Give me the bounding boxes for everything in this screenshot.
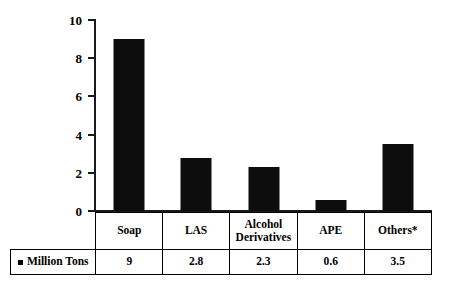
- y-axis-tick-mark: [88, 19, 95, 21]
- category-label: LAS: [163, 224, 229, 237]
- filled-square-marker-icon: [18, 260, 23, 265]
- y-axis-tick-mark: [88, 134, 95, 136]
- category-label: Derivatives: [230, 231, 297, 244]
- y-axis-tick-mark: [88, 172, 95, 174]
- y-axis-tick-label: 10: [46, 14, 82, 27]
- y-axis-tick-label: 6: [46, 90, 82, 103]
- category-cell: LAS: [163, 213, 230, 250]
- bar-series-million-tons: [95, 20, 432, 211]
- bar: [315, 200, 346, 211]
- category-label: Others*: [365, 224, 431, 237]
- bar: [113, 39, 144, 211]
- category-cell: APE: [297, 213, 364, 250]
- value-cell: 2.3: [229, 250, 297, 275]
- y-axis-tick-label: 2: [46, 166, 82, 179]
- legend-series-label: Million Tons: [27, 255, 89, 267]
- legend-spacer-cell: [11, 213, 96, 250]
- bar: [181, 158, 212, 211]
- value-cell: 0.6: [297, 250, 364, 275]
- category-label: Alcohol: [230, 218, 297, 231]
- y-axis-tick-label: 8: [46, 52, 82, 65]
- category-cell: AlcoholDerivatives: [229, 213, 297, 250]
- value-cell: 2.8: [163, 250, 230, 275]
- value-cell: 3.5: [364, 250, 431, 275]
- y-axis-tick-label: 4: [46, 128, 82, 141]
- bar: [248, 167, 279, 211]
- bar: [383, 144, 414, 211]
- y-axis-tick-mark: [88, 57, 95, 59]
- chart-data-table: SoapLASAlcoholDerivativesAPEOthers* Mill…: [10, 212, 432, 275]
- category-label: Soap: [96, 224, 162, 237]
- category-cell: Others*: [364, 213, 431, 250]
- category-cell: Soap: [96, 213, 163, 250]
- y-axis-tick-mark: [88, 95, 95, 97]
- value-row: Million Tons 92.82.30.63.5: [11, 250, 432, 275]
- category-label: APE: [298, 224, 364, 237]
- category-header-row: SoapLASAlcoholDerivativesAPEOthers*: [11, 213, 432, 250]
- value-cell: 9: [96, 250, 163, 275]
- legend-series-cell: Million Tons: [11, 250, 96, 275]
- bar-chart-figure: 0246810 SoapLASAlcoholDerivativesAPEOthe…: [0, 0, 452, 285]
